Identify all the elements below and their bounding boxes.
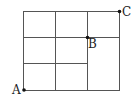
point-a-label: A [11, 83, 21, 97]
point-c-dot [118, 10, 122, 14]
grid-diagram: A B C [0, 0, 136, 101]
grid-outer-border [24, 12, 120, 91]
point-c-label: C [122, 5, 131, 19]
point-a-dot [22, 88, 26, 92]
point-b-label: B [88, 37, 97, 51]
